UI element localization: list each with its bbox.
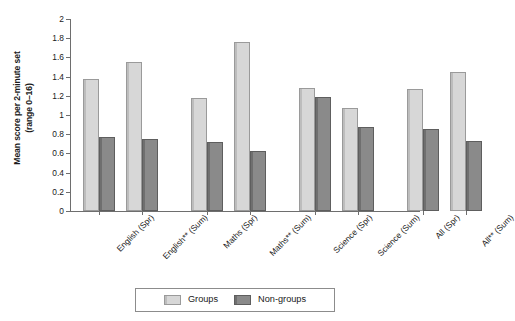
x-axis-label: English** (Sum) — [161, 213, 209, 261]
x-axis-label: All (Spr) — [434, 213, 462, 241]
bar-groups — [191, 98, 207, 211]
bar-non-groups — [99, 137, 115, 211]
x-axis-label: All** (Sum) — [480, 213, 515, 248]
y-tick-label: 2 — [59, 15, 64, 23]
y-tick-label: 0.6 — [52, 149, 64, 157]
legend-swatch-non-groups — [234, 295, 251, 305]
bar-cluster — [342, 19, 374, 211]
bar-groups — [83, 79, 99, 211]
y-axis-title-line1: Mean score per 2-minute set — [12, 51, 24, 164]
y-tick-label: 0.2 — [52, 188, 64, 196]
bar-groups — [450, 72, 466, 211]
y-tick-label: 0.8 — [52, 130, 64, 138]
y-tick-label: 1 — [59, 111, 64, 119]
bar-groups — [342, 108, 358, 211]
bar-non-groups — [466, 141, 482, 211]
y-axis-title: Mean score per 2-minute set (range 0–16) — [6, 8, 40, 208]
bar-non-groups — [207, 142, 223, 211]
legend-item-groups: Groups — [164, 295, 218, 305]
y-tick-mark — [66, 38, 70, 39]
x-axis-label: Science (Spr) — [332, 213, 374, 255]
y-axis-title-line2: (range 0–16) — [23, 51, 35, 164]
bar-cluster — [450, 19, 482, 211]
y-tick-mark — [66, 134, 70, 135]
y-tick-mark — [66, 19, 70, 20]
y-tick-label: 1.6 — [52, 53, 64, 61]
bar-non-groups — [423, 129, 439, 211]
x-axis-label: Science (Sum) — [376, 213, 421, 258]
bar-non-groups — [142, 139, 158, 211]
y-tick-mark — [66, 153, 70, 154]
bar-series-container — [71, 19, 420, 211]
y-tick-mark — [66, 211, 70, 212]
y-tick-label: 1.8 — [52, 34, 64, 42]
bar-non-groups — [358, 127, 374, 211]
bar-groups — [234, 42, 250, 211]
bar-cluster — [191, 19, 223, 211]
y-tick-label: 0.4 — [52, 168, 64, 176]
bar-cluster — [126, 19, 158, 211]
legend-swatch-groups — [164, 295, 181, 305]
y-tick-label: 0 — [59, 207, 64, 215]
bar-cluster — [83, 19, 115, 211]
x-axis-label: English (Spr) — [115, 213, 156, 254]
y-tick-mark — [66, 77, 70, 78]
bar-non-groups — [250, 151, 266, 211]
bar-cluster — [407, 19, 439, 211]
x-axis-labels: English (Spr)English** (Sum)Maths (Spr)M… — [70, 213, 422, 283]
chart-legend: Groups Non-groups — [135, 288, 335, 312]
bar-non-groups — [315, 97, 331, 211]
y-tick-label: 1.2 — [52, 92, 64, 100]
legend-label-non-groups: Non-groups — [258, 295, 306, 304]
y-tick-mark — [66, 96, 70, 97]
bar-groups — [126, 62, 142, 211]
x-tick-mark — [423, 211, 424, 215]
bar-groups — [407, 89, 423, 211]
bar-cluster — [234, 19, 266, 211]
legend-label-groups: Groups — [188, 295, 218, 304]
y-tick-mark — [66, 192, 70, 193]
plot-area: 21.81.61.41.210.80.60.40.20 — [70, 19, 420, 211]
y-tick-label: 1.4 — [52, 72, 64, 80]
y-tick-mark — [66, 57, 70, 58]
legend-item-non-groups: Non-groups — [234, 295, 306, 305]
x-axis-label: Maths** (Sum) — [268, 213, 313, 258]
x-axis-label: Maths (Spr) — [222, 213, 259, 250]
x-tick-mark — [466, 211, 467, 215]
bar-cluster — [299, 19, 331, 211]
bar-groups — [299, 88, 315, 211]
y-tick-mark — [66, 173, 70, 174]
y-tick-mark — [66, 115, 70, 116]
